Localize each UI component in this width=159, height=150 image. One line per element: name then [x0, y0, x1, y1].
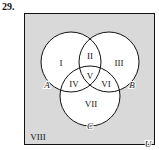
region-label-1: I — [60, 58, 63, 68]
region-label-3: III — [115, 58, 124, 68]
set-a-label: A — [43, 80, 50, 90]
region-label-5: V — [87, 71, 94, 81]
universe-label: U — [145, 139, 152, 149]
venn-diagram: I II III IV V VI VII VIII A B C U — [0, 0, 159, 150]
set-c-label: C — [87, 121, 94, 131]
region-label-6: VI — [101, 79, 111, 89]
region-label-4: IV — [69, 79, 79, 89]
set-b-label: B — [129, 80, 135, 90]
region-label-7: VII — [85, 99, 98, 109]
region-label-8: VIII — [30, 132, 46, 142]
region-label-2: II — [87, 51, 93, 61]
